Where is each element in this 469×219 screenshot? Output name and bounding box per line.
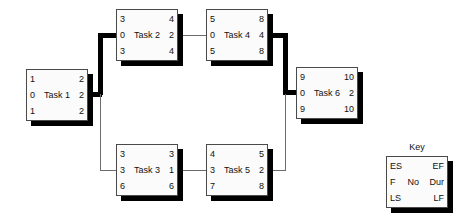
task-ef: 10 [344,70,354,84]
task-lf: 8 [257,179,264,193]
connector-merge-vertical-up [285,94,286,171]
task-float: 3 [120,163,127,177]
key-row-bottom: LS LF [390,191,444,205]
key-label-ls: LS [390,191,401,205]
task-ls: 1 [30,104,37,118]
node-row-top: 3 3 [120,147,174,161]
task-node-task-4[interactable]: 5 8 0 Task 4 4 5 8 [206,9,268,61]
node-row-middle: 0 Task 6 2 [300,86,354,100]
task-name: Task 5 [217,163,257,177]
node-row-bottom: 3 4 [120,44,174,58]
node-row-bottom: 9 10 [300,102,354,116]
task-es: 9 [300,70,307,84]
node-row-middle: 3 Task 5 2 [210,163,264,177]
task-lf: 6 [167,179,174,193]
task-name: Task 6 [307,86,347,100]
task-duration: 1 [167,163,174,177]
key-label-lf: LF [433,191,444,205]
task-name: Task 3 [127,163,167,177]
node-row-middle: 3 Task 3 1 [120,163,174,177]
task-ls: 5 [210,44,217,58]
key-label-es: ES [390,159,402,173]
connector-to-task3 [100,170,116,171]
task-float: 3 [210,163,217,177]
key-label-no: No [397,175,429,189]
task-ef: 3 [167,147,174,161]
key-label-ef: EF [432,159,444,173]
task-float: 0 [210,28,217,42]
task-ls: 6 [120,179,127,193]
task-lf: 10 [344,102,354,116]
task-es: 5 [210,12,217,26]
key-row-top: ES EF [390,159,444,173]
task-es: 3 [120,147,127,161]
network-diagram-canvas: 1 2 0 Task 1 2 1 2 3 4 0 Task 2 [0,0,469,219]
connector-task3-to-task5 [179,170,206,171]
connector-merge-vertical-down [283,33,288,95]
node-body: 3 4 0 Task 2 2 3 4 [116,9,178,61]
node-body: 1 2 0 Task 1 2 1 2 [26,69,88,121]
node-row-bottom: 7 8 [210,179,264,193]
connector-split-vertical-up [98,33,103,95]
node-body: ES EF F No Dur LS LF [386,156,448,208]
node-body: 3 3 3 Task 3 1 6 6 [116,144,178,196]
task-duration: 2 [347,86,354,100]
task-duration: 2 [167,28,174,42]
node-row-bottom: 1 2 [30,104,84,118]
task-ef: 4 [167,12,174,26]
task-ef: 2 [77,72,84,86]
task-ef: 5 [257,147,264,161]
node-body: 4 5 3 Task 5 2 7 8 [206,144,268,196]
key-title: Key [386,142,448,152]
connector-task2-to-task4 [179,35,206,36]
key-label-f: F [390,175,397,189]
task-float: 0 [300,86,307,100]
task-ef: 8 [257,12,264,26]
task-name: Task 2 [127,28,167,42]
task-float: 0 [120,28,127,42]
key-label-dur: Dur [429,175,444,189]
node-row-top: 5 8 [210,12,264,26]
node-row-top: 4 5 [210,147,264,161]
task-node-task-3[interactable]: 3 3 3 Task 3 1 6 6 [116,144,178,196]
key-box: ES EF F No Dur LS LF [386,156,448,208]
node-row-middle: 0 Task 2 2 [120,28,174,42]
node-row-bottom: 6 6 [120,179,174,193]
task-node-task-5[interactable]: 4 5 3 Task 5 2 7 8 [206,144,268,196]
task-duration: 2 [77,88,84,102]
node-row-top: 1 2 [30,72,84,86]
task-es: 4 [210,147,217,161]
task-ls: 3 [120,44,127,58]
task-name: Task 1 [37,88,77,102]
connector-split-vertical-down [100,94,101,171]
task-node-task-2[interactable]: 3 4 0 Task 2 2 3 4 [116,9,178,61]
node-row-middle: 0 Task 1 2 [30,88,84,102]
task-lf: 8 [257,44,264,58]
node-row-bottom: 5 8 [210,44,264,58]
task-lf: 4 [167,44,174,58]
task-duration: 2 [257,163,264,177]
key-row-middle: F No Dur [390,175,444,189]
task-float: 0 [30,88,37,102]
connector-to-task2 [98,33,116,38]
node-body: 5 8 0 Task 4 4 5 8 [206,9,268,61]
task-es: 1 [30,72,37,86]
task-ls: 9 [300,102,307,116]
task-lf: 2 [77,104,84,118]
task-node-task-6[interactable]: 9 10 0 Task 6 2 9 10 [296,67,358,119]
task-node-task-1[interactable]: 1 2 0 Task 1 2 1 2 [26,69,88,121]
task-duration: 4 [257,28,264,42]
node-row-middle: 0 Task 4 4 [210,28,264,42]
task-name: Task 4 [217,28,257,42]
connector-task5-out [272,170,286,171]
node-row-top: 9 10 [300,70,354,84]
task-ls: 7 [210,179,217,193]
node-body: 9 10 0 Task 6 2 9 10 [296,67,358,119]
task-es: 3 [120,12,127,26]
node-row-top: 3 4 [120,12,174,26]
